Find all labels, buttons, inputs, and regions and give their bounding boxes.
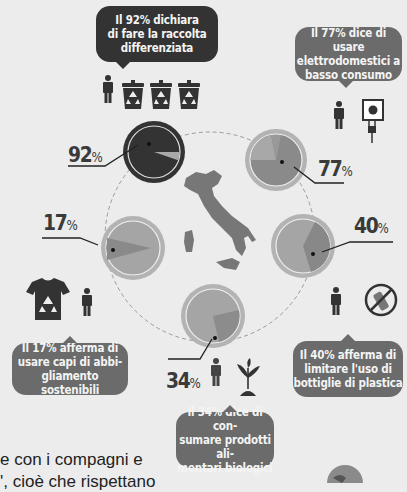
footer-line-2: ', cioè che rispettano xyxy=(0,472,155,492)
person-icon xyxy=(334,101,344,129)
recycle-bin-icon xyxy=(178,80,200,109)
power-socket-plug-icon xyxy=(363,100,383,143)
no-plastic-bottle-icon xyxy=(366,285,396,315)
globe-icon xyxy=(327,465,363,483)
person-icon xyxy=(103,75,113,103)
footer-line-1: e con i compagni e xyxy=(0,450,143,470)
recycle-bin-icon xyxy=(122,80,144,109)
person-icon xyxy=(82,288,92,316)
recycle-bin-icon xyxy=(150,80,172,109)
person-icon xyxy=(331,287,341,315)
recycle-tshirt-icon xyxy=(26,278,70,320)
sprout-icon xyxy=(237,358,260,396)
person-icon xyxy=(211,358,221,386)
